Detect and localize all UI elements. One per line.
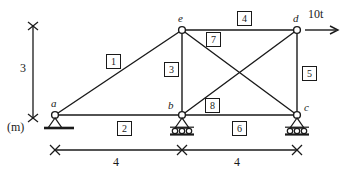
member-label-8: 8 bbox=[205, 98, 220, 113]
member-label-1: 1 bbox=[106, 54, 121, 69]
member-label-6: 6 bbox=[232, 121, 247, 136]
load-arrow-10t bbox=[305, 26, 338, 34]
node-label-d: d bbox=[293, 13, 299, 24]
member-label-7: 7 bbox=[206, 32, 221, 47]
load-label-10t: 10t bbox=[308, 8, 323, 20]
node-label-a: a bbox=[51, 98, 57, 109]
member-label-4: 4 bbox=[237, 11, 252, 26]
member-label-5: 5 bbox=[302, 66, 317, 81]
node-label-c: c bbox=[304, 102, 309, 113]
member-label-2: 2 bbox=[117, 121, 132, 136]
horizontal-dimension-label-left: 4 bbox=[113, 156, 119, 168]
node-e-joint bbox=[179, 27, 186, 34]
horizontal-dimension-line bbox=[50, 145, 302, 155]
member-label-3: 3 bbox=[164, 62, 179, 77]
node-d-joint bbox=[294, 27, 301, 34]
roller-support-b bbox=[170, 118, 194, 135]
pin-support-a bbox=[44, 118, 74, 128]
truss-structure-drawing bbox=[0, 0, 347, 175]
horizontal-dimension-label-right: 4 bbox=[234, 156, 240, 168]
unit-label: (m) bbox=[7, 121, 24, 133]
vertical-dimension-line bbox=[28, 22, 38, 122]
member-1-line bbox=[55, 30, 182, 115]
roller-support-c bbox=[285, 118, 309, 135]
truss-diagram-canvas: a b c d e 1 2 3 4 5 6 7 8 10t 3 (m) 4 4 bbox=[0, 0, 347, 175]
node-label-b: b bbox=[168, 100, 174, 111]
node-label-e: e bbox=[178, 13, 183, 24]
vertical-dimension-label: 3 bbox=[20, 62, 26, 74]
